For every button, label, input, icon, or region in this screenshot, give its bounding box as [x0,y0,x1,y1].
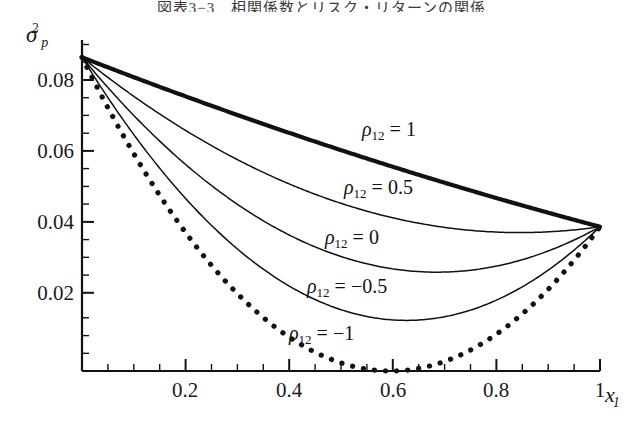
rho-subscript: 12 [372,128,385,143]
rho-subscript: 12 [354,186,367,201]
rho-value: = −0.5 [330,275,388,297]
rho-symbol: ρ [362,118,372,140]
y-tick-label: 0.06 [12,139,74,164]
y-tick-label: 0.08 [12,68,74,93]
y-tick-label: 0.04 [12,210,74,235]
x-tick-label: 0.6 [363,378,423,403]
curve-label-rho-neg05: ρ12 = −0.5 [307,275,387,298]
curve-label-rho-neg1: ρ12 = −1 [289,322,354,345]
rho-symbol: ρ [325,226,335,248]
rho-symbol: ρ [289,322,299,344]
curve-label-rho-05: ρ12 = 0.5 [344,176,413,199]
rho-subscript: 12 [299,332,312,347]
x-axis-title: x1 [605,382,622,408]
x-major-ticks [186,359,600,371]
rho-value: = 0 [348,226,379,248]
y-tick-label: 0.02 [12,281,74,306]
y-axis-exponent: 2 [31,21,38,36]
x-tick-label: 0.8 [466,378,526,403]
rho-subscript: 12 [335,236,348,251]
rho-subscript: 12 [317,285,330,300]
rho-symbol: ρ [307,275,317,297]
y-axis-subscript: p [41,35,48,50]
x-axis-subscript: 1 [613,395,620,410]
curve-label-rho-0: ρ12 = 0 [325,226,379,249]
rho-symbol: ρ [344,176,354,198]
rho-value: = −1 [312,322,355,344]
chart-plot-area [0,0,643,432]
rho-value: = 1 [385,118,416,140]
curve-label-rho-1: ρ12 = 1 [362,118,416,141]
rho-value: = 0.5 [367,176,413,198]
x-tick-label: 0.4 [259,378,319,403]
y-axis-title: σ2p [26,22,51,48]
x-tick-label: 0.2 [155,378,215,403]
